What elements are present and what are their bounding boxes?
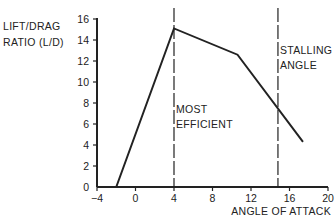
- x-tick-label: 16: [284, 192, 296, 204]
- annotation-label: ANGLE: [280, 59, 317, 71]
- x-tick-label: 4: [171, 192, 177, 204]
- y-tick-label: 14: [77, 34, 89, 46]
- x-tick-label: −4: [91, 192, 103, 204]
- x-tick-label: 0: [133, 192, 139, 204]
- y-tick-label: 0: [83, 181, 89, 193]
- y-tick-label: 8: [83, 97, 89, 109]
- x-tick-label: 20: [322, 192, 334, 204]
- y-tick-label: 10: [77, 76, 89, 88]
- annotation-label: MOST: [176, 103, 208, 115]
- line-chart: 0246810121416−4048121620ANGLE OF ATTACKM…: [0, 0, 335, 218]
- y-tick-label: 12: [77, 55, 89, 67]
- y-tick-label: 2: [83, 160, 89, 172]
- x-axis-label: ANGLE OF ATTACK: [231, 205, 331, 217]
- annotation-label: STALLING: [280, 44, 332, 56]
- x-tick-label: 8: [210, 192, 216, 204]
- y-tick-label: 6: [83, 118, 89, 130]
- x-tick-label: 12: [245, 192, 257, 204]
- y-tick-label: 4: [83, 139, 89, 151]
- annotation-label: EFFICIENT: [176, 118, 233, 130]
- ld-ratio-line: [116, 28, 303, 187]
- y-tick-label: 16: [77, 13, 89, 25]
